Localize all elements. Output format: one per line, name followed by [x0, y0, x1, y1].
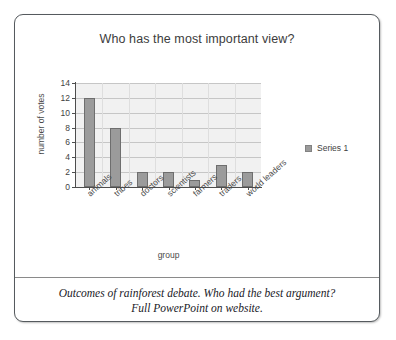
- y-axis-tick-mark: [72, 142, 75, 143]
- category-separator: [208, 83, 209, 187]
- category-separator: [102, 83, 103, 187]
- chart-caption: Outcomes of rainforest debate. Who had t…: [15, 286, 379, 315]
- gridline: [76, 128, 261, 129]
- gridline: [76, 142, 261, 143]
- y-axis-tick-mark: [72, 157, 75, 158]
- gridline: [76, 83, 261, 84]
- caption-divider: [15, 277, 379, 278]
- category-separator: [235, 83, 236, 187]
- y-axis-tick-mark: [72, 83, 75, 84]
- gridline: [76, 113, 261, 114]
- y-axis-tick-mark: [72, 128, 75, 129]
- caption-line-2: Full PowerPoint on website.: [15, 301, 379, 316]
- y-axis-tick-label: 10: [48, 109, 70, 117]
- category-separator: [155, 83, 156, 187]
- y-axis-tick-label: 14: [48, 79, 70, 87]
- category-separator: [129, 83, 130, 187]
- legend-label: Series 1: [317, 143, 348, 153]
- chart-title: Who has the most important view?: [15, 32, 379, 46]
- y-axis-tick-label: 0: [48, 183, 70, 191]
- y-axis-tick-mark: [72, 98, 75, 99]
- gridline: [76, 98, 261, 99]
- caption-line-1: Outcomes of rainforest debate. Who had t…: [15, 286, 379, 301]
- bar[interactable]: [84, 98, 95, 187]
- y-axis-tick-mark: [72, 172, 75, 173]
- legend-swatch-icon: [305, 145, 312, 152]
- y-axis-title: number of votes: [36, 74, 46, 174]
- y-axis-tick-label: 6: [48, 138, 70, 146]
- y-axis-tick-mark: [72, 187, 75, 188]
- gridline: [76, 157, 261, 158]
- category-separator: [182, 83, 183, 187]
- plot-area: [76, 83, 261, 187]
- y-axis-line: [75, 82, 76, 188]
- y-axis-tick-mark: [72, 113, 75, 114]
- y-axis-tick-label: 8: [48, 124, 70, 132]
- y-axis-tick-label: 4: [48, 153, 70, 161]
- y-axis-tick-label: 2: [48, 168, 70, 176]
- chart-legend: Series 1: [305, 143, 348, 153]
- chart-card: Who has the most important view? number …: [14, 14, 380, 322]
- y-axis-tick-label: 12: [48, 94, 70, 102]
- x-axis-title: group: [76, 250, 261, 260]
- screenshot-root: Who has the most important view? number …: [0, 0, 396, 340]
- chart-area: Who has the most important view? number …: [15, 15, 379, 271]
